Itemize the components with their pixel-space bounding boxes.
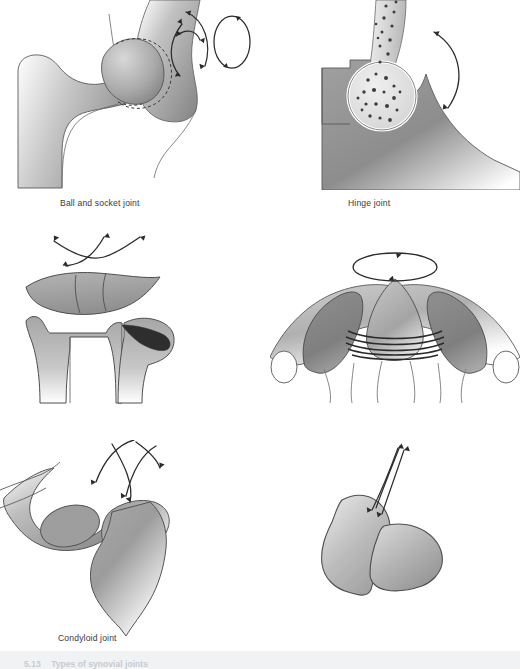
caption-hinge: Hinge joint <box>348 198 390 208</box>
transverse-foramen-left <box>271 351 297 383</box>
panel-ball-and-socket: Ball and socket joint <box>0 0 260 190</box>
hinge-motion-arrow <box>434 31 459 109</box>
transverse-foramen-right <box>493 351 519 383</box>
panel-condyloid: Condyloid joint <box>0 225 260 405</box>
radius-bone <box>26 317 122 404</box>
panel-hinge: Hinge joint <box>280 0 520 190</box>
metacarpal-shaft <box>90 502 166 636</box>
caption-ball-and-socket: Ball and socket joint <box>60 198 140 208</box>
arrow-glide-c <box>376 446 400 508</box>
figure-caption: 5.13 Types of synovial joints <box>24 659 148 669</box>
arrow-flexion-extension <box>434 32 459 108</box>
figure-caption-text: Types of synovial joints <box>51 659 148 669</box>
condyloid-joint-illustration <box>0 225 260 405</box>
figure-number: 5.13 <box>24 659 41 669</box>
arrow-rotation-ellipse <box>214 16 250 68</box>
panel-gliding: Gliding joint <box>280 440 520 640</box>
gliding-motion-arrows <box>367 444 410 518</box>
arrow-rotation-ellipse-horizontal <box>353 253 437 281</box>
gliding-joint-illustration <box>280 440 520 640</box>
pivot-motion-arrow <box>353 253 437 281</box>
condyloid-motion-arrows <box>54 233 146 266</box>
hinge-joint-illustration <box>280 0 520 190</box>
panel-pivot: Pivot joint <box>270 245 520 405</box>
inferior-arch-contours <box>324 361 466 403</box>
ball-and-socket-illustration <box>0 0 260 190</box>
carpal-bone-right <box>370 524 442 591</box>
joint-types-figure: Ball and socket joint <box>0 0 520 669</box>
saddle-joint-illustration <box>0 440 260 640</box>
carpal-row-superior <box>26 273 160 315</box>
saddle-motion-arrows <box>91 440 165 502</box>
panel-saddle: Saddle joint <box>0 440 260 640</box>
pivot-joint-illustration <box>270 245 520 405</box>
